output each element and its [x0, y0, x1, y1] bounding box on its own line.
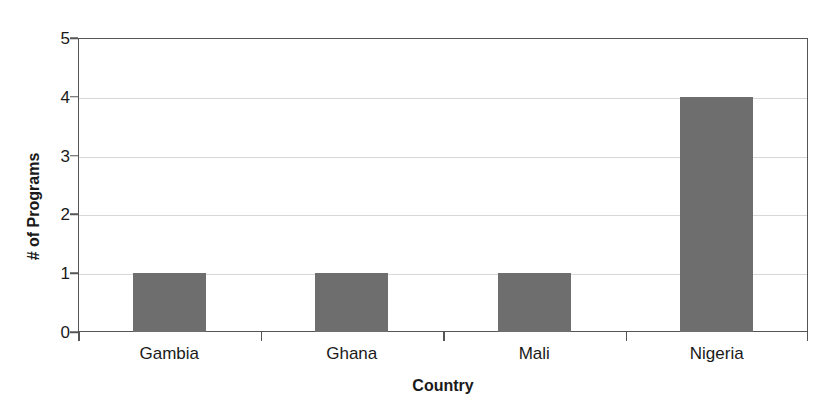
y-tick-mark	[70, 214, 78, 216]
bar-ghana[interactable]	[315, 273, 388, 332]
y-tick-mark	[70, 272, 78, 274]
bar-mali[interactable]	[498, 273, 571, 332]
bar-series	[78, 38, 808, 332]
bar-slot-nigeria	[626, 38, 809, 332]
bar-slot-mali	[443, 38, 626, 332]
x-tick-mark	[807, 332, 809, 341]
x-axis-tick-labels: Gambia Ghana Mali Nigeria	[78, 344, 808, 364]
y-tick-mark	[70, 96, 78, 98]
x-tick-label-gambia: Gambia	[78, 344, 261, 364]
y-axis-tick-marks	[0, 38, 78, 332]
x-tick-mark	[261, 332, 263, 341]
bar-nigeria[interactable]	[680, 97, 753, 332]
x-axis-title: Country	[78, 377, 808, 395]
x-axis-tick-marks	[78, 332, 808, 342]
y-tick-mark	[70, 37, 78, 39]
bar-slot-ghana	[261, 38, 444, 332]
bar-gambia[interactable]	[133, 273, 206, 332]
x-tick-mark	[626, 332, 628, 341]
x-tick-label-mali: Mali	[443, 344, 626, 364]
x-tick-mark	[78, 332, 80, 341]
x-tick-mark	[443, 332, 445, 341]
y-tick-mark	[70, 155, 78, 157]
bar-chart-figure: # of Programs 5 4 3 2 1 0	[0, 0, 824, 413]
x-tick-label-ghana: Ghana	[261, 344, 444, 364]
y-tick-mark	[70, 331, 78, 333]
bar-slot-gambia	[78, 38, 261, 332]
x-tick-label-nigeria: Nigeria	[626, 344, 809, 364]
